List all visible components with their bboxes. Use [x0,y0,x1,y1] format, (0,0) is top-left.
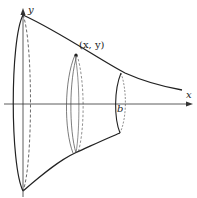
y-axis-label: y [27,4,34,15]
y-axis [21,8,26,197]
point-marker [74,53,77,56]
point-label: (x, y) [79,39,105,50]
b-label: b [117,103,123,114]
x-axis-label: x [186,89,192,100]
left-ellipse-back [23,15,31,191]
x-axis-arrow-icon [186,102,193,107]
x-axis [4,102,193,107]
left-ellipse-front [13,15,23,191]
solid-of-revolution-diagram: y x (x, y) b [0,0,197,198]
bottom-curve [23,133,120,191]
y-axis-arrow-icon [21,8,26,15]
top-curve [23,15,182,90]
